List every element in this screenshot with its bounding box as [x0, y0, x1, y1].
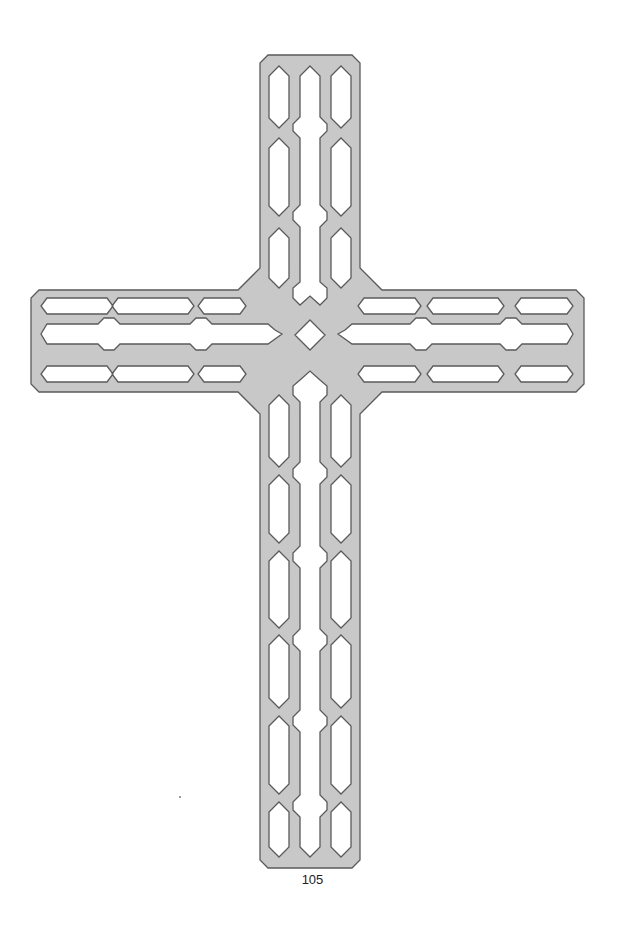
page-number: 105	[0, 872, 625, 887]
stray-mark	[179, 796, 181, 798]
cross-pattern	[0, 0, 625, 927]
cross-outline	[31, 55, 584, 868]
